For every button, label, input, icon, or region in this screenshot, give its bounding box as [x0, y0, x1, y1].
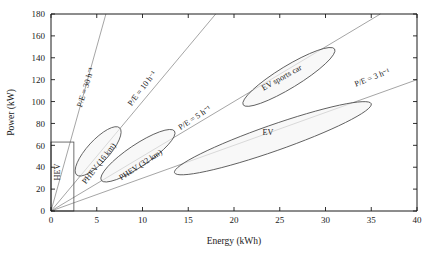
x-tick-label: 40 [413, 215, 423, 225]
x-axis-title: Energy (kWh) [207, 236, 261, 247]
y-tick-label: 100 [32, 97, 46, 107]
y-tick-label: 40 [36, 162, 46, 172]
region-label-hev: HEV [53, 164, 62, 181]
x-tick-label: 15 [184, 215, 194, 225]
power-vs-energy-scatter-chart: 0510152025303540 02040608010012014016018… [0, 0, 434, 261]
y-tick-label: 180 [32, 9, 46, 19]
y-tick-label: 120 [32, 75, 46, 85]
x-tick-label: 5 [95, 215, 100, 225]
y-tick-label: 140 [32, 53, 46, 63]
x-tick-label: 30 [321, 215, 331, 225]
y-axis-title: Power (kW) [6, 89, 17, 136]
x-tick-label: 35 [367, 215, 377, 225]
x-tick-label: 10 [138, 215, 148, 225]
y-tick-label: 60 [36, 141, 46, 151]
y-tick-label: 20 [36, 184, 46, 194]
region-label-ev: EV [263, 128, 274, 137]
x-tick-label: 20 [230, 215, 240, 225]
chart-container: 0510152025303540 02040608010012014016018… [0, 0, 434, 261]
y-tick-label: 160 [32, 31, 46, 41]
x-tick-label: 25 [275, 215, 285, 225]
x-tick-label: 0 [49, 215, 54, 225]
y-tick-label: 0 [41, 206, 46, 216]
y-tick-label: 80 [36, 119, 46, 129]
